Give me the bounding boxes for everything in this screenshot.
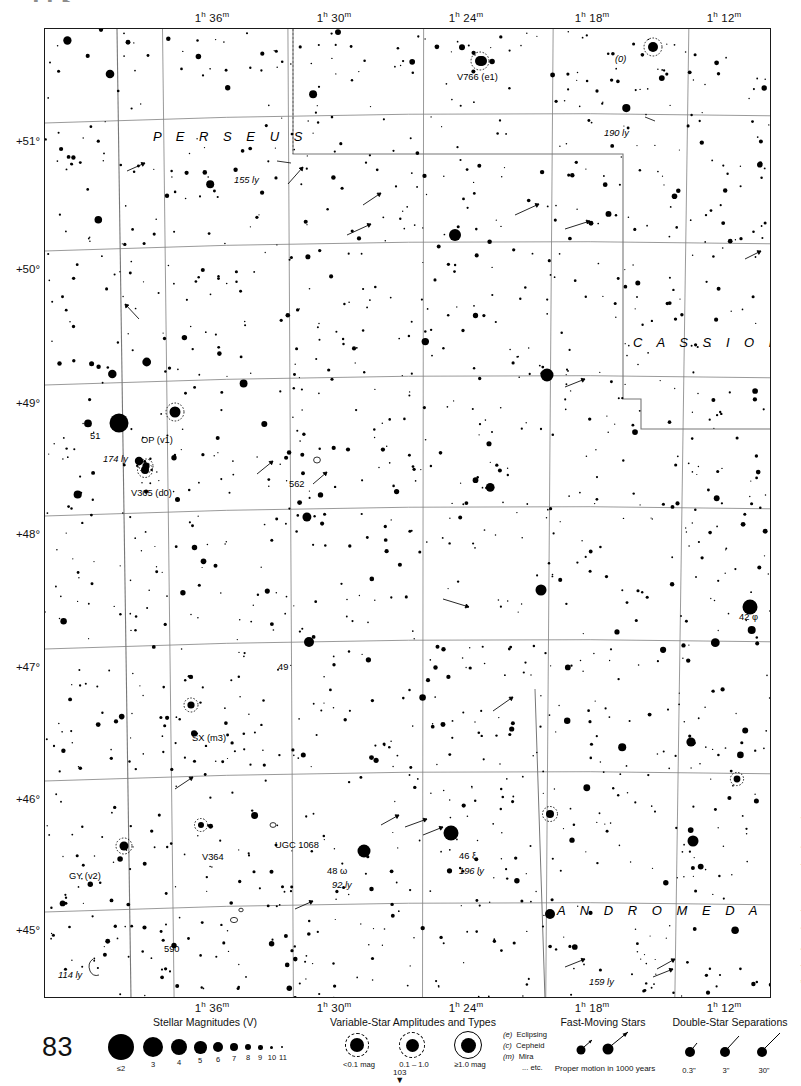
label-v766: V766 (e1)	[457, 73, 498, 83]
ra-tick-bottom-5: 1h 12m	[707, 1000, 742, 1014]
continuation-page-pointer: 103 ▼	[393, 1068, 406, 1083]
variable-symbol-small	[344, 1032, 374, 1062]
label-196ly: 196 ly	[459, 867, 484, 877]
ra-tick-top-2: 1h 30m	[317, 10, 352, 24]
chart-legend: Stellar Magnitudes (V) ≤2 3 4 5 6 7 8	[0, 1014, 801, 1086]
sky-chart-frame: P E R S E U S C A S S I O P E I A A N D …	[44, 28, 771, 998]
magnitude-dot-5	[194, 1041, 207, 1054]
label-92ly: 92 ly	[332, 881, 352, 891]
dec-tick-51: +51°	[2, 135, 40, 147]
dec-tick-45: +45°	[2, 924, 40, 936]
magnitude-label-6: 6	[216, 1055, 220, 1064]
magnitude-label-8: 8	[246, 1053, 250, 1062]
label-op-v1: OP (v1)	[141, 436, 173, 446]
label-155ly: 155 ly	[234, 176, 259, 186]
double-caption-03: 0.3"	[682, 1066, 695, 1075]
magnitude-dot-8	[245, 1044, 251, 1050]
double-star-symbols	[665, 1030, 795, 1066]
ra-tick-bottom-3: 1h 24m	[449, 1000, 484, 1014]
magnitude-dot-9	[258, 1045, 263, 1050]
variable-core-medium	[406, 1039, 419, 1052]
legend-magnitudes-title: Stellar Magnitudes (V)	[100, 1016, 310, 1028]
label-46-xi: 46 ξ	[459, 852, 476, 862]
constellation-perseus: P E R S E U S	[153, 129, 308, 144]
label-gy-v2: GY (v2)	[69, 872, 101, 882]
magnitude-dot-7	[230, 1043, 238, 1051]
label-159ly: 159 ly	[589, 978, 614, 988]
ra-tick-bottom-4: 1h 18m	[575, 1000, 610, 1014]
starfield-svg	[45, 29, 771, 998]
legend-variables-title: Variable-Star Amplitudes and Types	[330, 1016, 530, 1028]
down-arrow-icon: ▼	[393, 1077, 406, 1083]
label-v365-d0: V365 (d0)	[131, 489, 172, 499]
label-42-phi: 42 φ	[739, 613, 758, 623]
label-ugc-1068: UGC 1068	[275, 841, 319, 851]
ra-tick-top-3: 1h 24m	[449, 10, 484, 24]
legend-doubles-title: Double-Star Separations	[665, 1016, 795, 1028]
magnitude-dot-4	[171, 1039, 187, 1055]
legend-fast-moving: Fast-Moving Stars Proper motion in 1000 …	[538, 1016, 678, 1028]
legend-fast-moving-caption: Proper motion in 1000 years	[530, 1064, 680, 1073]
magnitude-label-9: 9	[258, 1053, 262, 1062]
magnitude-label-4: 4	[177, 1058, 181, 1067]
double-caption-3: 3"	[723, 1066, 730, 1075]
ra-tick-bottom-1: 1h 36m	[195, 1000, 230, 1014]
legend-fast-moving-title: Fast-Moving Stars	[538, 1016, 668, 1028]
magnitude-dot-2	[108, 1034, 134, 1060]
ra-tick-bottom-2: 1h 30m	[317, 1000, 352, 1014]
dec-tick-46: +46°	[2, 793, 40, 805]
magnitude-label-7: 7	[232, 1054, 236, 1063]
star-chart-page: 113 1h 36m 1h 30m 1h 24m 1h 18m 1h 12m 1…	[0, 0, 801, 1086]
top-cut-folio: 113	[28, 0, 73, 2]
legend-variables: Variable-Star Amplitudes and Types <0.1 …	[330, 1016, 530, 1028]
label-562: 562	[289, 480, 305, 490]
variable-symbol-large	[454, 1030, 486, 1062]
dec-tick-48: +48°	[2, 528, 40, 540]
label-zero: (0)	[615, 55, 626, 65]
dec-tick-49: +49°	[2, 397, 40, 409]
double-caption-30: 30"	[758, 1066, 769, 1075]
ra-tick-top-1: 1h 36m	[195, 10, 230, 24]
variable-type-mira: (m) Mira	[503, 1052, 533, 1061]
variable-symbol-medium	[399, 1032, 429, 1062]
fast-moving-symbols	[538, 1030, 668, 1064]
ra-tick-top-5: 1h 12m	[707, 10, 742, 24]
magnitude-label-10: 10	[268, 1053, 276, 1062]
magnitude-label-3: 3	[151, 1060, 155, 1069]
legend-magnitudes: Stellar Magnitudes (V) ≤2 3 4 5 6 7 8	[100, 1016, 310, 1028]
dec-tick-50: +50°	[2, 263, 40, 275]
label-sx-m3: SX (m3)	[192, 734, 226, 744]
ra-tick-top-4: 1h 18m	[575, 10, 610, 24]
variable-core-small	[350, 1038, 364, 1052]
label-590: 590	[164, 945, 180, 955]
constellation-andromeda: A N D R O M E D A	[557, 903, 763, 918]
variable-caption-large: ≥1.0 mag	[454, 1060, 486, 1069]
constellation-cassiopeia: C A S S I O P E I A	[633, 335, 771, 350]
label-48-omega: 48 ω	[327, 867, 347, 877]
label-190ly: 190 ly	[604, 129, 629, 139]
magnitude-dot-3	[143, 1037, 163, 1057]
variable-caption-small: <0.1 mag	[343, 1060, 375, 1069]
magnitude-scale: ≤2 3 4 5 6 7 8 9 10 11	[100, 1028, 310, 1072]
magnitude-dot-11	[281, 1046, 283, 1048]
magnitude-dot-6	[213, 1042, 223, 1052]
label-v364: V364	[202, 853, 224, 863]
variable-core-large	[461, 1038, 476, 1053]
legend-doubles: Double-Star Separations 0.3" 3" 30"	[665, 1016, 795, 1028]
label-174ly: 174 ly	[103, 455, 128, 465]
magnitude-label-11: 11	[279, 1053, 287, 1062]
dec-tick-47: +47°	[2, 661, 40, 673]
label-114ly: 114 ly	[58, 971, 82, 981]
magnitude-label-2: ≤2	[117, 1064, 125, 1073]
label-51: 51	[90, 432, 100, 442]
magnitude-dot-10	[270, 1046, 273, 1049]
label-49: 49	[278, 663, 288, 673]
magnitude-label-5: 5	[198, 1056, 202, 1065]
